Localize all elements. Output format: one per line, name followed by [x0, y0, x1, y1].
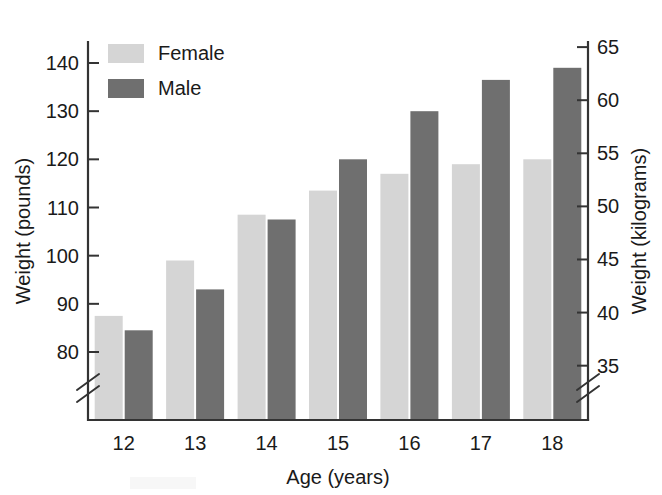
legend-label-male: Male: [158, 77, 201, 99]
x-axis-title: Age (years): [286, 466, 389, 488]
bar-male-age-14: [268, 220, 296, 421]
bar-female-age-13: [166, 261, 194, 421]
bar-male-age-13: [196, 289, 224, 420]
partial-legend-swatch-artifact: [130, 477, 196, 489]
left-tick-label-120: 120: [46, 148, 79, 170]
right-tick-label-60: 60: [597, 89, 619, 111]
left-tick-label-80: 80: [57, 341, 79, 363]
right-tick-label-50: 50: [597, 195, 619, 217]
x-tick-label-13: 13: [184, 432, 206, 454]
bar-female-age-12: [95, 316, 123, 420]
legend-swatch-male: [108, 79, 144, 98]
right-tick-label-35: 35: [597, 355, 619, 377]
left-tick-label-110: 110: [47, 197, 79, 219]
y-axis-title-left: Weight (pounds): [12, 158, 34, 304]
chart-canvas: 8090100110120130140354045505560651213141…: [0, 0, 662, 495]
legend-label-female: Female: [158, 42, 225, 64]
bar-chart-figure: 8090100110120130140354045505560651213141…: [0, 0, 662, 495]
left-tick-label-130: 130: [46, 100, 79, 122]
bar-male-age-18: [553, 68, 581, 420]
right-tick-label-45: 45: [597, 248, 619, 270]
left-tick-label-140: 140: [46, 52, 79, 74]
right-tick-label-40: 40: [597, 302, 619, 324]
x-tick-label-15: 15: [327, 432, 349, 454]
right-tick-label-65: 65: [597, 36, 619, 58]
bar-male-age-12: [125, 330, 153, 420]
bar-male-age-17: [482, 80, 510, 420]
bar-female-age-16: [380, 174, 408, 420]
bar-female-age-15: [309, 191, 337, 420]
y-axis-title-right: Weight (kilograms): [628, 148, 650, 314]
x-tick-label-16: 16: [398, 432, 420, 454]
bar-female-age-14: [238, 215, 266, 420]
x-tick-label-14: 14: [255, 432, 277, 454]
left-tick-label-100: 100: [46, 245, 79, 267]
bar-male-age-15: [339, 159, 367, 420]
x-tick-label-12: 12: [113, 432, 135, 454]
x-tick-label-17: 17: [470, 432, 492, 454]
x-tick-label-18: 18: [541, 432, 563, 454]
left-tick-label-90: 90: [57, 293, 79, 315]
bar-female-age-17: [452, 164, 480, 420]
bar-female-age-18: [523, 159, 551, 420]
legend-swatch-female: [108, 44, 144, 63]
bar-male-age-16: [410, 111, 438, 420]
right-tick-label-55: 55: [597, 142, 619, 164]
